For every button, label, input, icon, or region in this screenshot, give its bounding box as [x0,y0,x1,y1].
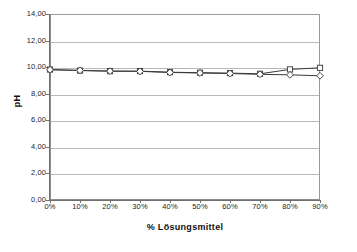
y-axis-title: pH [12,81,22,121]
ph-vs-solvent-chart: 14,00 12,00 10,00 8,00 6,00 4,00 2,00 0,… [0,0,357,252]
data-point-square [317,65,322,70]
data-point-diamond [317,72,324,79]
data-point-diamond [287,71,294,78]
clipped-caption [22,246,352,252]
series-diamond [47,66,324,79]
x-axis-title: % Lösungsmittel [50,222,320,232]
data-series-layer [0,0,357,252]
